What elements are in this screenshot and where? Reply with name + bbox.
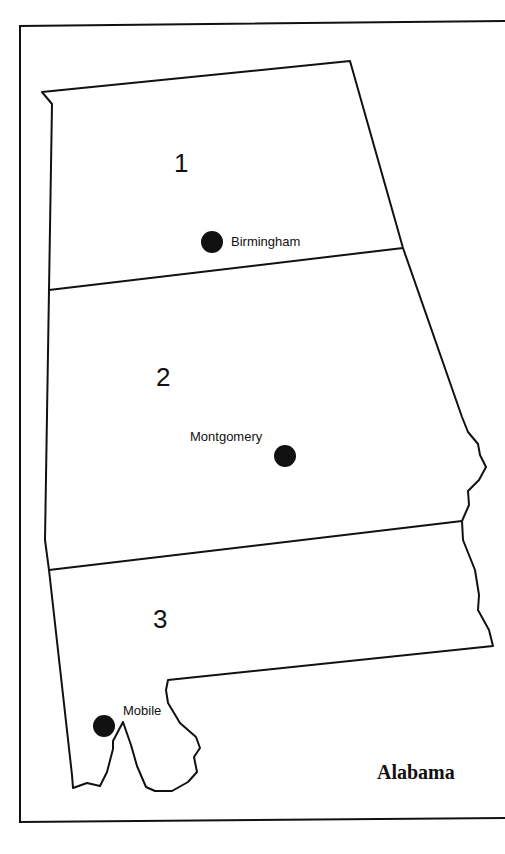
city-label-birmingham: Birmingham — [231, 234, 300, 249]
region-number-3: 3 — [153, 604, 167, 634]
city-label-montgomery: Montgomery — [190, 429, 263, 444]
alabama-map: 1 2 3 Birmingham Montgomery Mobile Alaba… — [0, 0, 505, 854]
city-label-mobile: Mobile — [123, 703, 161, 718]
city-marker-mobile[interactable] — [93, 715, 115, 737]
city-marker-montgomery[interactable] — [274, 445, 296, 467]
map-title: Alabama — [377, 761, 455, 783]
state-outline — [42, 61, 493, 791]
region-boundary-2-3 — [49, 521, 462, 570]
map-frame — [20, 21, 505, 822]
region-boundary-1-2 — [49, 248, 403, 290]
city-marker-birmingham[interactable] — [201, 231, 223, 253]
region-number-2: 2 — [156, 362, 170, 392]
region-number-1: 1 — [174, 148, 188, 178]
